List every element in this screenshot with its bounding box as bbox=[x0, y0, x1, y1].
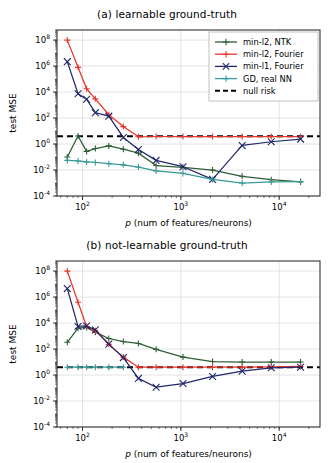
legend-label: GD, real NN bbox=[243, 74, 292, 84]
svg-text:10-2: 10-2 bbox=[33, 163, 50, 175]
svg-text:10-4: 10-4 bbox=[33, 189, 50, 201]
svg-text:100: 100 bbox=[35, 137, 50, 149]
svg-text:104: 104 bbox=[272, 200, 287, 212]
svg-text:108: 108 bbox=[35, 264, 50, 276]
svg-text:test MSE: test MSE bbox=[8, 324, 18, 364]
legend-label: min-l2, NTK bbox=[243, 37, 292, 47]
legend-label: min-l1, Fourier bbox=[243, 61, 304, 71]
svg-text:100: 100 bbox=[35, 368, 50, 380]
chart-panel-a: (a) learnable ground-truth 1021031041081… bbox=[0, 0, 334, 231]
svg-text:test MSE: test MSE bbox=[8, 93, 18, 133]
svg-text:108: 108 bbox=[35, 33, 50, 45]
svg-text:p (num of features/neurons): p (num of features/neurons) bbox=[124, 218, 252, 228]
svg-text:p (num of features/neurons): p (num of features/neurons) bbox=[124, 449, 252, 459]
svg-text:106: 106 bbox=[35, 290, 50, 302]
svg-text:104: 104 bbox=[272, 431, 287, 443]
svg-text:10-4: 10-4 bbox=[33, 420, 50, 432]
panel-a-plot: 10210310410810610410210010-210-4p (num o… bbox=[0, 0, 334, 231]
legend-label: min-l2, Fourier bbox=[243, 49, 304, 59]
svg-text:102: 102 bbox=[75, 431, 90, 443]
svg-text:103: 103 bbox=[174, 431, 189, 443]
legend-label: null risk bbox=[243, 86, 276, 96]
panel-b-plot: 10210310410810610410210010-210-4p (num o… bbox=[0, 231, 334, 462]
svg-text:104: 104 bbox=[35, 85, 50, 97]
svg-text:104: 104 bbox=[35, 316, 50, 328]
svg-text:103: 103 bbox=[174, 200, 189, 212]
svg-text:102: 102 bbox=[75, 200, 90, 212]
svg-text:102: 102 bbox=[35, 111, 50, 123]
svg-text:10-2: 10-2 bbox=[33, 394, 50, 406]
chart-panel-b: (b) not-learnable ground-truth 102103104… bbox=[0, 231, 334, 462]
svg-text:106: 106 bbox=[35, 59, 50, 71]
svg-text:102: 102 bbox=[35, 342, 50, 354]
figure-container: (a) learnable ground-truth 1021031041081… bbox=[0, 0, 334, 463]
